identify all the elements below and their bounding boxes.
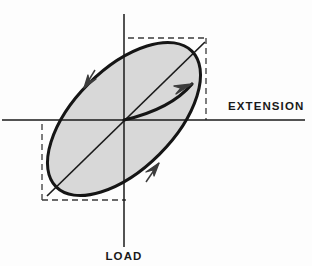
load-axis-label: LOAD bbox=[106, 250, 143, 262]
extension-axis-label: EXTENSION bbox=[228, 100, 304, 112]
hysteresis-figure: EXTENSION LOAD bbox=[0, 0, 312, 266]
hysteresis-diagram: EXTENSION LOAD bbox=[0, 0, 312, 266]
